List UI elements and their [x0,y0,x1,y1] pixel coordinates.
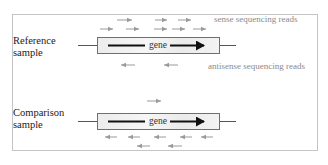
reference-sense-reads [100,20,206,29]
diagram-graphics [0,0,328,165]
comparison-antisense-reads [105,137,213,146]
